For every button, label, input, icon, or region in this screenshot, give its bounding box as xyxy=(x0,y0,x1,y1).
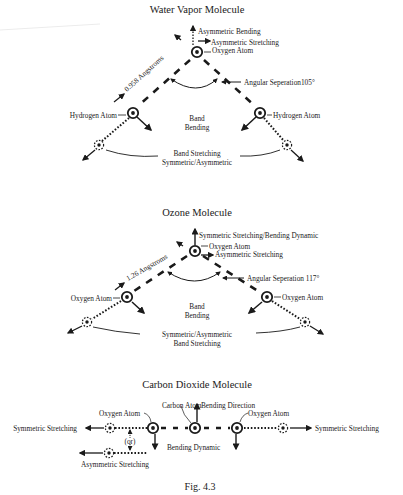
co2-asym-displaced-oxygen-icon xyxy=(104,448,113,457)
bend-arrow-right xyxy=(242,117,256,130)
bend-arrow-left xyxy=(137,117,151,130)
co2-title: Carbon Dioxide Molecule xyxy=(142,379,252,390)
hydrogen-left-icon xyxy=(128,108,138,118)
scan-artifact xyxy=(0,24,100,30)
ozone-section: Ozone Molecule Symmetric Stretching/Bend… xyxy=(68,207,323,348)
water-vapor-section: Water Vapor Molecule Asymmetric Bending … xyxy=(70,4,321,167)
co2-oxygen-left-label: Oxygen Atom xyxy=(99,409,140,418)
co2-oxygen-left-icon xyxy=(148,423,158,433)
hydrogen-right-icon xyxy=(255,108,265,118)
ozone-oxygen-left-icon xyxy=(122,292,132,302)
ozone-sym-label: Symmetric Stretching/Bending Dynamic xyxy=(199,231,319,240)
band-stretch-label-1: Band Stretching xyxy=(173,149,221,158)
hydrogen-right-label: Hydrogen Atom xyxy=(273,111,321,120)
ozone-angle-arc xyxy=(168,272,220,281)
ozone-band-stretch-1: Symmetric/Asymmetric xyxy=(162,330,233,339)
molecule-diagram: Water Vapor Molecule Asymmetric Bending … xyxy=(0,0,403,495)
co2-section: Carbon Dioxide Molecule Symmetric Stretc… xyxy=(13,379,379,469)
displaced-hydrogen-left-icon xyxy=(94,140,103,149)
co2-oxygen-right-icon xyxy=(232,423,242,433)
co2-sym-left-label: Symmetric Stretching xyxy=(13,424,77,433)
ozone-band-bending-2: Bending xyxy=(185,311,210,320)
bond-length-arrow-bottom xyxy=(114,94,124,102)
water-angle-arc xyxy=(171,79,217,88)
water-title: Water Vapor Molecule xyxy=(150,4,245,15)
ozone-oxygen-right-icon xyxy=(262,292,272,302)
hydrogen-left-label: Hydrogen Atom xyxy=(70,111,118,120)
water-dotted-right xyxy=(264,118,284,141)
ozone-oxygen-top-icon xyxy=(190,246,200,256)
ozone-oxygen-left-label: Oxygen Atom xyxy=(71,294,112,303)
ozone-band-stretch-2: Band Stretching xyxy=(173,339,221,348)
bond-length-arrow-top xyxy=(175,35,181,40)
ozone-title: Ozone Molecule xyxy=(162,207,232,218)
co2-oxygen-right-label: Oxygen Atom xyxy=(248,409,289,418)
figure-caption: Fig. 4.3 xyxy=(185,481,216,492)
co2-or-label: (or) xyxy=(125,437,137,446)
co2-asym-stretch-label: Asymmetric Stretching xyxy=(81,460,149,469)
ozone-displaced-left-icon xyxy=(82,317,91,326)
co2-sym-right-label: Symmetric Stretching xyxy=(315,424,379,433)
water-oxygen-atom-icon xyxy=(192,47,202,57)
co2-displaced-oxygen-left-icon xyxy=(105,423,114,432)
co2-bending-dynamic-label: Bending Dynamic xyxy=(167,443,221,452)
ozone-angular-sep: Angular Seperation 117° xyxy=(247,274,319,283)
band-stretch-label-2: Symmetric/Asymmetric xyxy=(162,158,233,167)
co2-displaced-oxygen-right-icon xyxy=(278,423,287,432)
band-bending-label-2: Bending xyxy=(185,123,210,132)
water-bond-length: 0.958 Angstroms xyxy=(122,53,165,93)
ozone-displaced-right-icon xyxy=(300,317,309,326)
water-angular-sep: Angular Seperation105° xyxy=(244,78,315,87)
co2-carbon-icon xyxy=(190,423,200,433)
ozone-oxygen-right-label: Oxygen Atom xyxy=(282,293,323,302)
ozone-bond-length: 1.26 Angstroms xyxy=(125,252,170,283)
ozone-band-bending-1: Band xyxy=(189,302,205,311)
water-dotted-left xyxy=(102,118,129,141)
ozone-asym-label: Asymmetric Stretching xyxy=(215,250,283,259)
water-oxygen-label: Oxygen Atom xyxy=(212,46,253,55)
asym-bending-label: Asymmetric Bending xyxy=(198,27,261,36)
band-bending-label-1: Band xyxy=(189,114,205,123)
displaced-hydrogen-right-icon xyxy=(282,140,291,149)
